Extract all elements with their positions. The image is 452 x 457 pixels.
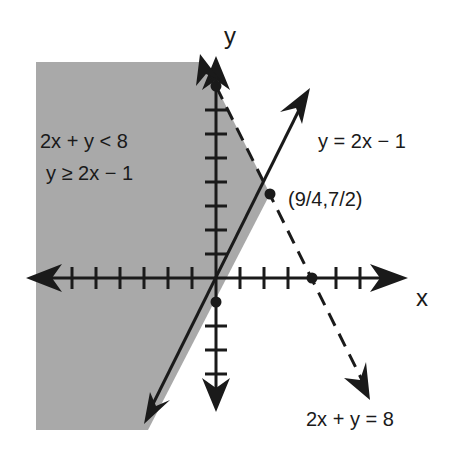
solid-line-equation-label: y = 2x − 1 <box>318 130 406 152</box>
shaded-solution-region <box>36 62 270 430</box>
point-0-8 <box>211 81 222 92</box>
point-intersection <box>265 189 276 200</box>
region-inequality-2: y ≥ 2x − 1 <box>46 162 133 184</box>
intersection-point-label: (9/4,7/2) <box>288 188 362 210</box>
point-4-0 <box>307 273 318 284</box>
inequality-graph: y x 2x + y < 8 y ≥ 2x − 1 y = 2x − 1 (9/… <box>0 0 452 457</box>
y-axis-label: y <box>224 22 236 49</box>
x-axis-label: x <box>416 284 428 311</box>
region-inequality-1: 2x + y < 8 <box>40 130 128 152</box>
dashed-line-equation-label: 2x + y = 8 <box>306 408 394 430</box>
point-0-neg1 <box>211 297 222 308</box>
dashed-line-lower-arrow-icon <box>344 362 370 400</box>
